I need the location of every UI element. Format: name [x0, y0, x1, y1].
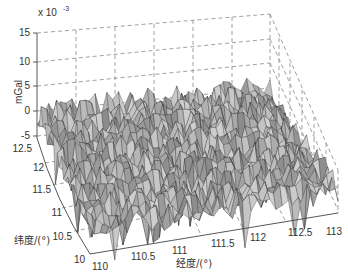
svg-text:10: 10: [74, 254, 86, 265]
plot-canvas: 15 10 5 0 -5 x 10 -3 mGal 12.5 12 11.5 1…: [0, 0, 348, 275]
y-axis-label: 纬度/(°): [14, 234, 50, 246]
svg-text:x 10: x 10: [38, 7, 57, 18]
svg-text:12: 12: [33, 162, 45, 173]
svg-text:113: 113: [326, 226, 342, 237]
svg-text:110: 110: [92, 261, 108, 272]
svg-text:-5: -5: [21, 130, 30, 141]
svg-text:5: 5: [24, 80, 30, 91]
x-axis-label: 经度/(°): [176, 257, 212, 269]
svg-text:15: 15: [19, 27, 31, 38]
z-axis-label: mGal: [13, 80, 24, 104]
svg-text:111: 111: [172, 245, 188, 256]
svg-text:11: 11: [52, 207, 63, 218]
svg-text:112.5: 112.5: [288, 227, 313, 238]
svg-text:-3: -3: [63, 5, 69, 12]
svg-text:111.5: 111.5: [211, 238, 235, 249]
z-exponent: x 10 -3: [38, 5, 69, 18]
svg-text:11.5: 11.5: [32, 184, 51, 195]
svg-text:12.5: 12.5: [13, 143, 33, 154]
svg-text:10.5: 10.5: [53, 231, 73, 242]
surface-plot: 15 10 5 0 -5 x 10 -3 mGal 12.5 12 11.5 1…: [0, 0, 348, 275]
svg-text:112: 112: [250, 232, 266, 243]
svg-text:10: 10: [19, 56, 31, 67]
svg-text:0: 0: [24, 105, 30, 116]
svg-text:110.5: 110.5: [131, 251, 156, 262]
